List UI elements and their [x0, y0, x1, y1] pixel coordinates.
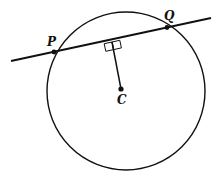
label-c: C: [117, 93, 127, 107]
right-angle-marks: [104, 40, 121, 51]
label-q: Q: [164, 9, 175, 23]
diagram-canvas: P Q C: [0, 0, 219, 176]
right-angle-mark-right: [112, 40, 121, 49]
label-p: P: [46, 35, 57, 49]
secant-line-pq: [11, 18, 211, 61]
geometry-figure: P Q C: [0, 0, 219, 176]
point-c: [118, 86, 123, 91]
point-q: [165, 25, 170, 30]
point-p: [52, 50, 57, 55]
